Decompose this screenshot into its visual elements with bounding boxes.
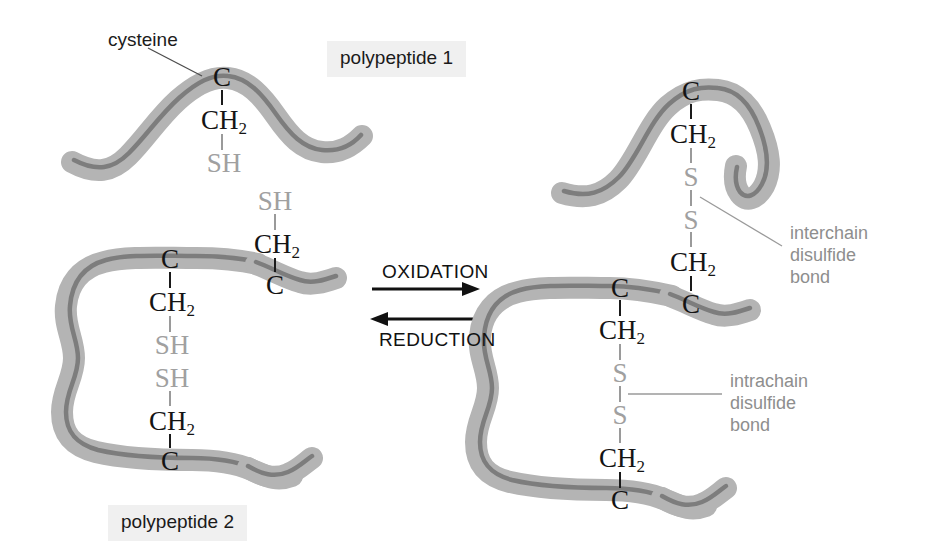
interchain-bond-label-line2: disulfide xyxy=(790,245,868,267)
atom-carbon: C xyxy=(266,272,284,299)
atom-sulfur: S xyxy=(612,402,627,429)
atom-carbon: C xyxy=(611,275,629,302)
atom-sulfur: S xyxy=(683,207,698,234)
atom-methylene: CH2 xyxy=(254,231,300,258)
chain-polypeptide-1-oxidized xyxy=(562,87,769,198)
polypeptide-1-label: polypeptide 1 xyxy=(327,41,466,77)
atom-sulfur: S xyxy=(612,360,627,387)
intrachain-bond-label-line1: intrachain xyxy=(730,371,808,393)
atom-methylene: CH2 xyxy=(599,445,645,472)
intrachain-bond-label-line3: bond xyxy=(730,415,808,437)
atom-carbon: C xyxy=(611,487,629,514)
atom-sulfur: S xyxy=(683,164,698,191)
intrachain-bond-label: intrachain disulfide bond xyxy=(730,371,808,437)
reduction-label: REDUCTION xyxy=(379,330,496,349)
chain-polypeptide-2-reduced-tail xyxy=(248,456,312,477)
atom-methylene: CH2 xyxy=(599,317,645,344)
atom-methylene: CH2 xyxy=(201,107,247,134)
figure-canvas: C CH2 SH C CH2 SH SH CH2 C SH CH2 C C CH… xyxy=(0,0,948,551)
atom-thiol: SH xyxy=(155,332,190,359)
atom-methylene: CH2 xyxy=(149,289,195,316)
atom-methylene: CH2 xyxy=(670,121,716,148)
interchain-bond-label-line3: bond xyxy=(790,267,868,289)
intrachain-bond-label-line2: disulfide xyxy=(730,393,808,415)
chain-band xyxy=(476,288,706,509)
atom-carbon: C xyxy=(161,246,179,273)
chain-polypeptide-2-oxidized-tail xyxy=(662,486,726,507)
cysteine-leader-line xyxy=(148,48,202,76)
oxidation-label: OXIDATION xyxy=(382,262,489,281)
polypeptide-2-label: polypeptide 2 xyxy=(108,505,247,541)
cysteine-label: cysteine xyxy=(108,30,178,49)
atom-thiol: SH xyxy=(155,365,190,392)
atom-carbon: C xyxy=(161,448,179,475)
atom-carbon: C xyxy=(682,291,700,318)
reduction-arrow xyxy=(370,312,480,326)
atom-thiol: SH xyxy=(207,150,242,177)
interchain-bond-label: interchain disulfide bond xyxy=(790,223,868,289)
interchain-bond-label-line1: interchain xyxy=(790,223,868,245)
atom-methylene: CH2 xyxy=(149,408,195,435)
atom-methylene: CH2 xyxy=(670,249,716,276)
chain-polypeptide-2-oxidized xyxy=(476,286,706,509)
atom-carbon: C xyxy=(682,78,700,105)
atom-carbon: C xyxy=(213,64,231,91)
atom-thiol: SH xyxy=(258,188,293,215)
oxidation-arrow xyxy=(372,282,480,296)
